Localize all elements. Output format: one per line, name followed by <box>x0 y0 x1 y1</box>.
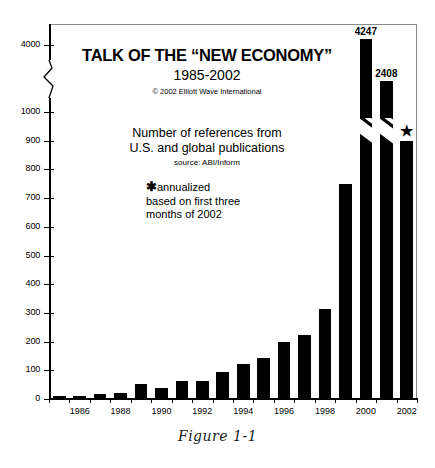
bar-1991 <box>176 381 189 399</box>
chart-copyright: © 2002 Elliott Wave International <box>57 87 357 97</box>
figure-caption: Figure 1-1 <box>0 428 435 444</box>
y-tick-label-200: 200 <box>0 337 40 346</box>
x-tick-3 <box>110 399 111 403</box>
y-tick-label-400: 400 <box>0 279 40 288</box>
footnote-line-1: ✱annualized <box>146 180 326 195</box>
x-tick-5 <box>151 399 152 403</box>
x-tick-label-1994: 1994 <box>225 406 261 416</box>
description-line-2: U.S. and global publications <box>57 141 357 156</box>
bar-1996 <box>278 342 291 399</box>
x-tick-17 <box>397 399 398 403</box>
x-tick-label-1986: 1986 <box>62 406 98 416</box>
bar-1992 <box>196 381 209 399</box>
y-tick-label-wrap-4000: 4000 <box>0 40 42 49</box>
x-tick-14 <box>335 399 336 403</box>
figure-1-1: 010020030040050060070080090010004000 198… <box>0 0 435 468</box>
bar-1994 <box>237 364 250 399</box>
y-tick-label-wrap-0: 0 <box>0 394 42 403</box>
y-tick-label-300: 300 <box>0 308 40 317</box>
y-tick-label-500: 500 <box>0 251 40 260</box>
x-tick-4 <box>131 399 132 403</box>
x-tick-label-1988: 1988 <box>103 406 139 416</box>
bar-2000 <box>360 39 373 399</box>
bar-1985 <box>53 396 66 399</box>
x-tick-6 <box>172 399 173 403</box>
chart-subtitle: 1985-2002 <box>57 67 357 84</box>
bar-break-2001 <box>379 118 394 144</box>
x-tick-label-1998: 1998 <box>307 406 343 416</box>
x-tick-label-1992: 1992 <box>184 406 220 416</box>
y-tick-label-wrap-300: 300 <box>0 308 42 317</box>
y-tick-label-900: 900 <box>0 136 40 145</box>
bar-1989 <box>135 384 148 399</box>
y-tick-label-wrap-500: 500 <box>0 251 42 260</box>
y-tick-label-wrap-600: 600 <box>0 222 42 231</box>
bar-1995 <box>257 358 270 399</box>
bar-1999 <box>339 184 352 399</box>
bar-1997 <box>298 335 311 399</box>
x-tick-15 <box>356 399 357 403</box>
y-tick-label-wrap-1000: 1000 <box>0 107 42 116</box>
y-tick-label-wrap-900: 900 <box>0 136 42 145</box>
bar-2002 <box>400 141 413 399</box>
y-tick-label-wrap-100: 100 <box>0 365 42 374</box>
x-tick-1 <box>69 399 70 403</box>
y-tick-label-600: 600 <box>0 222 40 231</box>
asterisk-icon: ✱ <box>146 179 157 194</box>
y-tick-label-4000: 4000 <box>0 40 40 49</box>
bar-label-2000: 4247 <box>341 27 391 37</box>
y-tick-label-800: 800 <box>0 164 40 173</box>
y-tick-label-700: 700 <box>0 193 40 202</box>
y-tick-label-0: 0 <box>0 394 40 403</box>
bar-1998 <box>319 309 332 399</box>
x-tick-12 <box>294 399 295 403</box>
y-tick-label-wrap-700: 700 <box>0 193 42 202</box>
chart-title: TALK OF THE “NEW ECONOMY” <box>57 46 357 65</box>
x-tick-label-1990: 1990 <box>143 406 179 416</box>
x-tick-0 <box>49 399 50 403</box>
bar-1988 <box>114 393 127 399</box>
y-tick-label-wrap-200: 200 <box>0 337 42 346</box>
bar-1990 <box>155 388 168 399</box>
x-tick-11 <box>274 399 275 403</box>
x-tick-label-2000: 2000 <box>348 406 384 416</box>
bar-break-2000 <box>359 118 374 144</box>
footnote-line-2: based on first three <box>146 195 326 209</box>
footnote-block: ✱annualized based on first three months … <box>146 180 326 222</box>
x-tick-7 <box>192 399 193 403</box>
x-tick-10 <box>253 399 254 403</box>
x-tick-2 <box>90 399 91 403</box>
bar-1986 <box>73 396 86 399</box>
description-block: Number of references from U.S. and globa… <box>57 126 357 168</box>
x-tick-end <box>417 399 418 403</box>
x-tick-13 <box>315 399 316 403</box>
x-tick-label-1996: 1996 <box>266 406 302 416</box>
y-tick-label-wrap-800: 800 <box>0 164 42 173</box>
source-label: source: ABI/Inform <box>57 157 357 168</box>
y-tick-label-100: 100 <box>0 365 40 374</box>
footnote-text-1: annualized <box>157 181 210 193</box>
title-block: TALK OF THE “NEW ECONOMY” 1985-2002 © 20… <box>57 46 357 97</box>
x-tick-label-2002: 2002 <box>389 406 425 416</box>
y-tick-label-1000: 1000 <box>0 107 40 116</box>
footnote-line-3: months of 2002 <box>146 208 326 222</box>
description-line-1: Number of references from <box>57 126 357 141</box>
x-tick-9 <box>233 399 234 403</box>
y-tick-label-wrap-400: 400 <box>0 279 42 288</box>
bar-label-2001: 2408 <box>361 69 411 79</box>
bar-1993 <box>216 372 229 399</box>
x-tick-16 <box>376 399 377 403</box>
x-tick-8 <box>213 399 214 403</box>
bar-1987 <box>94 394 107 399</box>
